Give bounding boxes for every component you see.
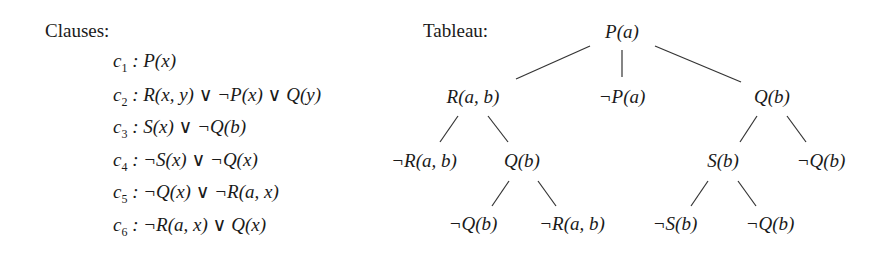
edge (492, 181, 509, 206)
tableau-node-not-r-a-b: ¬R(a, b) (391, 150, 457, 172)
tableau-node-not-q-b: ¬Q(b) (797, 150, 846, 172)
clause-c6: c6 : ¬R(a, x) ∨ Q(x) (113, 213, 266, 240)
clause-c2: c2 : R(x, y) ∨ ¬P(x) ∨ Q(y) (113, 83, 321, 110)
clause-formula: : S(x) ∨ ¬Q(b) (132, 116, 246, 137)
edge (538, 181, 556, 206)
tableau-heading: Tableau: (423, 20, 488, 42)
clause-name: c6 (113, 214, 127, 235)
clause-name: c1 (113, 50, 127, 71)
clause-c3: c3 : S(x) ∨ ¬Q(b) (113, 115, 246, 142)
edge (440, 116, 458, 142)
edge (516, 46, 590, 79)
clauses-heading: Clauses: (45, 20, 109, 42)
tableau-node-s-b: S(b) (707, 150, 739, 172)
edge (787, 116, 806, 142)
edge (740, 116, 757, 142)
clause-formula: : ¬S(x) ∨ ¬Q(x) (132, 149, 258, 170)
clause-c5: c5 : ¬Q(x) ∨ ¬R(a, x) (113, 180, 279, 207)
tableau-node-q-b: Q(b) (754, 86, 790, 108)
clause-formula: : ¬R(a, x) ∨ Q(x) (132, 214, 266, 235)
edge (655, 46, 741, 82)
edge (691, 181, 708, 206)
clause-name: c4 (113, 149, 127, 170)
clause-name: c2 (113, 84, 127, 105)
tableau-node-not-q-b: ¬Q(b) (746, 213, 795, 235)
clause-formula: : ¬Q(x) ∨ ¬R(a, x) (132, 181, 279, 202)
tableau-node-not-p-a: ¬P(a) (599, 86, 646, 108)
clause-name: c5 (113, 181, 127, 202)
tableau-node-not-r-a-b: ¬R(a, b) (539, 213, 605, 235)
tableau-node-not-s-b: ¬S(b) (653, 213, 697, 235)
clause-c1: c1 : P(x) (113, 50, 176, 76)
edge (738, 181, 756, 206)
clause-c4: c4 : ¬S(x) ∨ ¬Q(x) (113, 148, 258, 175)
edge (488, 116, 508, 142)
tableau-root-node: P(a) (605, 21, 639, 43)
tableau-node-not-q-b: ¬Q(b) (449, 213, 498, 235)
clause-name: c3 (113, 116, 127, 137)
clause-formula: : P(x) (132, 50, 176, 71)
clause-formula: : R(x, y) ∨ ¬P(x) ∨ Q(y) (132, 84, 321, 105)
tableau-node-q-b: Q(b) (504, 150, 540, 172)
tableau-node-r-a-b: R(a, b) (447, 86, 500, 108)
